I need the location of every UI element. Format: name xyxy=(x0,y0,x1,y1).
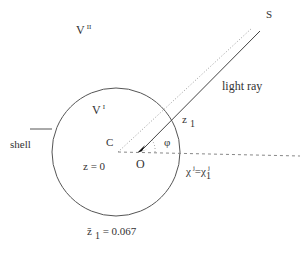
dashed-horizontal-line xyxy=(118,152,300,156)
center-label: C xyxy=(106,137,113,148)
center-redshift-label: z = 0 xyxy=(83,161,105,172)
angle-phi-label: φ xyxy=(164,137,170,148)
shell-label: shell xyxy=(10,139,31,150)
light-ray-label: light ray xyxy=(222,80,262,92)
zbar-value-label: z̄1 = 0.067 xyxy=(87,226,136,237)
shell-circle xyxy=(52,88,180,216)
region-outer-label: VII xyxy=(76,24,91,36)
angle-arc xyxy=(152,140,155,152)
source-label: S xyxy=(266,9,272,20)
region-inner-label: VI xyxy=(92,104,105,116)
diagram-canvas xyxy=(0,0,301,258)
crossing-redshift-label: z1 xyxy=(182,114,195,125)
chi-equation-label: χj=χj1 xyxy=(186,166,211,177)
observer-label: O xyxy=(136,158,145,170)
